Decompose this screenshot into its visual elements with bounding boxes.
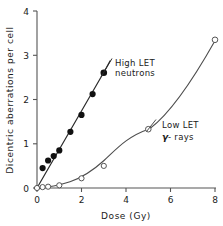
dose-response-chart: 0 1 2 3 4 0 2 4 6 8 Dose (Gy) Dicentric …: [0, 0, 223, 226]
annotation-label-line1: High LET: [115, 58, 155, 68]
data-point-open: [79, 176, 84, 181]
data-point-filled: [51, 153, 57, 159]
y-axis-ticks: [33, 11, 37, 188]
data-point-open: [34, 185, 39, 190]
data-point-open: [212, 37, 218, 43]
y-axis-title: Dicentric aberrations per cell: [5, 26, 15, 173]
x-tick-label-2: 2: [79, 195, 85, 205]
axes-group: [37, 11, 216, 188]
x-axis-title: Dose (Gy): [101, 211, 151, 221]
annotation-label-gamma-rays: - rays: [168, 132, 194, 142]
y-tick-label-3: 3: [23, 51, 29, 61]
data-point-filled: [78, 112, 84, 118]
x-tick-label-0: 0: [34, 195, 40, 205]
x-tick-label-6: 6: [168, 195, 174, 205]
data-point-filled: [40, 165, 46, 171]
x-axis-ticks: [37, 188, 215, 192]
data-point-filled: [56, 147, 62, 153]
y-tick-label-0: 0: [23, 184, 29, 194]
data-point-filled: [45, 157, 51, 163]
annotation-label-line1: Low LET: [162, 120, 199, 130]
neutron-curve: [37, 61, 110, 188]
data-point-filled: [90, 91, 96, 97]
data-point-open: [57, 183, 62, 188]
x-tick-label-4: 4: [123, 195, 129, 205]
y-tick-label-1: 1: [23, 139, 29, 149]
annotation-label-line2: neutrons: [115, 68, 155, 78]
x-tick-label-8: 8: [212, 195, 218, 205]
data-point-filled: [67, 129, 73, 135]
data-point-open: [46, 184, 51, 189]
annotation-low-let-gamma-rays: Low LET γ - rays: [147, 120, 200, 143]
x-axis-tick-labels: 0 2 4 6 8: [34, 195, 218, 205]
chart-figure: 0 1 2 3 4 0 2 4 6 8 Dose (Gy) Dicentric …: [0, 0, 223, 226]
annotation-high-let-neutrons: High LET neutrons: [101, 58, 155, 78]
data-point-open: [40, 185, 45, 190]
data-point-open: [101, 163, 106, 168]
y-tick-label-2: 2: [23, 95, 29, 105]
y-tick-label-4: 4: [23, 7, 29, 17]
y-axis-tick-labels: 0 1 2 3 4: [23, 7, 29, 194]
